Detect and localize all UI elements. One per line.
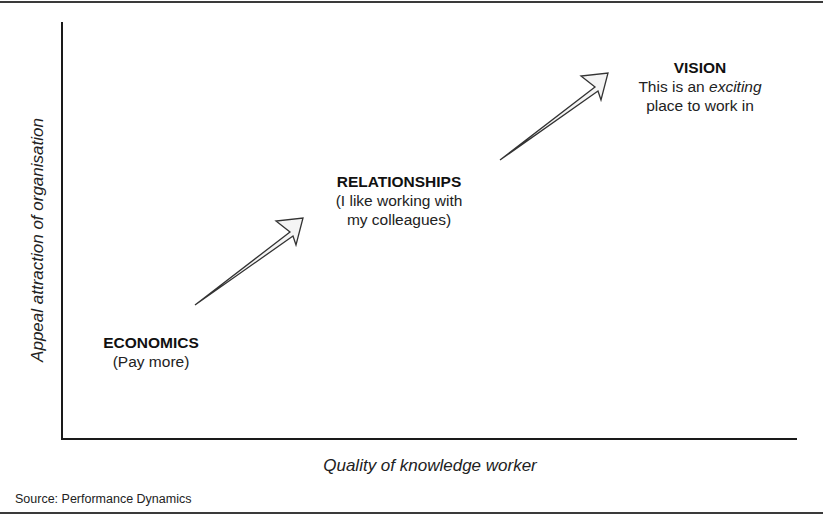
node-economics: ECONOMICS (Pay more) [103, 333, 199, 371]
node-relationships-title: RELATIONSHIPS [336, 172, 463, 191]
node-relationships: RELATIONSHIPS (I like working with my co… [336, 172, 463, 229]
node-economics-title: ECONOMICS [103, 333, 199, 352]
node-relationships-desc-line2: my colleagues) [336, 210, 463, 229]
node-vision-desc-emphasis: exciting [709, 78, 762, 95]
node-vision: VISION This is an exciting place to work… [638, 58, 761, 115]
source-note: Source: Performance Dynamics [15, 492, 191, 506]
node-relationships-desc-line1: (I like working with [336, 191, 463, 210]
node-vision-title: VISION [638, 58, 761, 77]
bottom-rule [0, 512, 823, 514]
arrow-relationships-to-vision-icon [500, 73, 608, 160]
arrow-economics-to-relationships-icon [195, 218, 303, 305]
node-vision-desc-line1: This is an exciting [638, 77, 761, 96]
node-vision-desc-prefix: This is an [638, 78, 709, 95]
node-economics-desc: (Pay more) [103, 352, 199, 371]
node-vision-desc-line2: place to work in [638, 96, 761, 115]
